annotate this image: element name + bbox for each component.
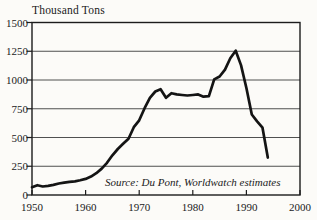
x-axis-tick-label: 1960: [69, 201, 103, 214]
y-axis-tick-label: 0: [0, 188, 28, 202]
y-axis-tick-label: 1250: [0, 44, 28, 58]
y-axis-tick-label: 1000: [0, 73, 28, 87]
x-axis-tick-label: 1990: [229, 201, 263, 214]
cfc-production-line: [32, 51, 268, 188]
x-axis-tick-label: 1950: [15, 201, 49, 214]
y-axis-tick-label: 1500: [0, 16, 28, 30]
source-note: Source: Du Pont, Worldwatch estimates: [105, 176, 280, 189]
x-axis-tick-label: 2000: [283, 201, 317, 214]
cfc-production-chart: Thousand Tons 0250500750100012501500 195…: [0, 0, 317, 220]
y-axis-tick-label: 250: [0, 159, 28, 173]
x-axis-tick-label: 1980: [176, 201, 210, 214]
y-axis-tick-label: 750: [0, 102, 28, 116]
x-axis-tick-label: 1970: [122, 201, 156, 214]
y-axis-tick-label: 500: [0, 131, 28, 145]
